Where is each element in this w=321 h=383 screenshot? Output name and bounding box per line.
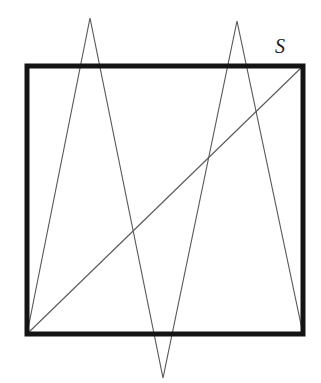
figure-canvas	[0, 0, 321, 383]
diagonal-line	[27, 66, 303, 334]
square-label-s: S	[275, 36, 285, 56]
geometry-figure: S	[0, 0, 321, 383]
zigzag-polyline	[27, 18, 303, 378]
